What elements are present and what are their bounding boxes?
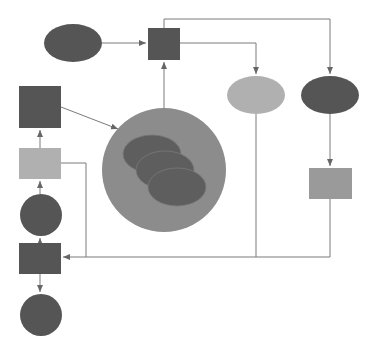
rect-left-light-node[interactable]	[19, 148, 61, 179]
rect-right-medium-node[interactable]	[309, 168, 352, 199]
circle-left-middle-node[interactable]	[20, 194, 62, 236]
nodes-layer	[19, 24, 359, 336]
rect-left-bottom-node[interactable]	[19, 243, 61, 274]
edge-lightrect-to-bottomline-connector	[61, 163, 86, 257]
diagram-canvas	[0, 0, 376, 355]
ellipse-dark-right-node[interactable]	[301, 76, 359, 114]
square-top-center-node[interactable]	[148, 28, 180, 60]
flowchart-svg	[0, 0, 376, 355]
edge-square-to-light-ellipse-connector	[180, 43, 256, 74]
edge-darksquare-to-bigcircle-connector	[61, 107, 118, 129]
circle-left-bottom-node[interactable]	[20, 294, 62, 336]
ellipse-light-right-node[interactable]	[227, 76, 285, 114]
square-left-dark-node[interactable]	[19, 86, 61, 128]
edge-square-to-dark-ellipse-connector	[164, 19, 330, 74]
ellipse-top-left-node[interactable]	[44, 24, 102, 62]
inner-ellipse-3-node[interactable]	[148, 168, 206, 206]
